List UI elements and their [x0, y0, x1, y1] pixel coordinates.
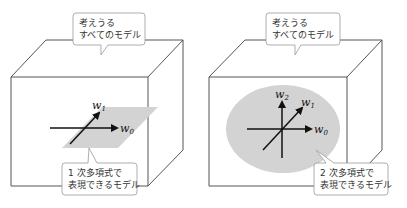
- left-panel: w0 w1 考えうる すべてのモデル 1 次多項式で 表現できるモデル: [11, 13, 183, 195]
- left-bottom-callout-line2: 表現できるモデル: [68, 179, 140, 190]
- left-bottom-callout-line1: 1 次多項式で: [68, 167, 122, 178]
- right-bottom-callout: 2 次多項式で 表現できるモデル: [314, 150, 392, 195]
- right-top-callout-line2: すべてのモデル: [272, 29, 334, 40]
- left-top-callout-line1: 考えうる: [79, 18, 115, 28]
- left-top-callout: 考えうる すべてのモデル: [73, 13, 145, 55]
- right-bottom-callout-line1: 2 次多項式で: [320, 167, 374, 178]
- right-top-callout-line1: 考えうる: [272, 18, 308, 28]
- diagram-canvas: w0 w1 考えうる すべてのモデル 1 次多項式で 表現できるモデル: [0, 0, 407, 208]
- right-top-callout: 考えうる すべてのモデル: [266, 13, 340, 55]
- right-panel: w0 w1 w2 考えうる すべてのモデル 2 次多項式で 表現できるモデル: [209, 13, 392, 195]
- right-bottom-callout-line2: 表現できるモデル: [320, 179, 392, 190]
- left-top-callout-line2: すべてのモデル: [79, 29, 141, 40]
